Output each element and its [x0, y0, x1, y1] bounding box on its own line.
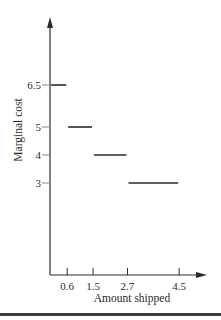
marginal-cost-chart: 0.61.52.74.5 3456.5 Amount shipped Margi… — [0, 0, 221, 320]
y-tick-label: 6.5 — [27, 79, 41, 91]
x-tick-label: 2.7 — [121, 280, 135, 292]
y-axis-title: Marginal cost — [12, 98, 25, 162]
x-axis-title: Amount shipped — [94, 292, 171, 305]
x-tick-label: 0.6 — [60, 280, 74, 292]
x-ticks: 0.61.52.74.5 — [60, 268, 186, 292]
y-tick-label: 3 — [36, 177, 42, 189]
y-axis-arrow-icon — [47, 17, 53, 28]
data-segments — [51, 85, 178, 183]
x-tick-label: 1.5 — [86, 280, 100, 292]
y-tick-label: 5 — [36, 121, 42, 133]
y-tick-label: 4 — [36, 149, 42, 161]
x-axis-arrow-icon — [196, 272, 207, 278]
x-tick-label: 4.5 — [172, 280, 186, 292]
y-ticks: 3456.5 — [27, 79, 50, 189]
bottom-rule — [0, 313, 221, 316]
axes — [47, 17, 207, 278]
